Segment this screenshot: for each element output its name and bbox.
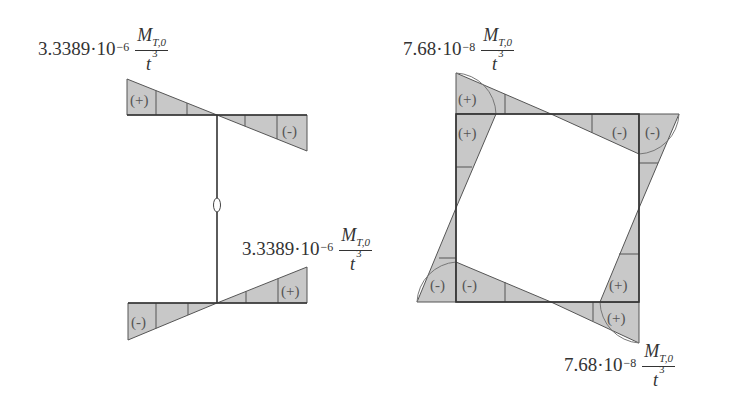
sign-plus: (+) (130, 92, 148, 109)
closed-section-diagram: (+) (+) (-) (-) (-) (-) (+) (+) (417, 73, 679, 343)
sign-plus: (+) (607, 310, 625, 327)
sign-minus: (-) (462, 277, 477, 294)
sign-minus: (-) (430, 277, 445, 294)
fraction: MT,0 t3 (135, 26, 168, 73)
sign-plus: (+) (458, 91, 476, 108)
right-top-magnitude-label: 7.68·10−8 MT,0 t3 (403, 26, 514, 73)
sign-plus: (+) (458, 125, 476, 142)
sign-plus: (+) (609, 277, 627, 294)
fraction: MT,0 t3 (642, 342, 675, 389)
left-bottom-magnitude-label: 3.3389·10−6 MT,0 t3 (242, 226, 372, 273)
zero-marker-icon (214, 198, 221, 212)
open-section-diagram: (+) (-) (-) (+) (127, 79, 307, 340)
sign-minus: (-) (612, 124, 627, 141)
sign-minus: (-) (131, 314, 146, 331)
sign-plus: (+) (281, 283, 299, 300)
sign-minus: (-) (645, 124, 660, 141)
bottom-edge-positive-region (551, 302, 639, 343)
fraction: MT,0 t3 (339, 226, 372, 273)
sign-minus: (-) (282, 123, 297, 140)
fraction: MT,0 t3 (481, 26, 514, 73)
left-top-magnitude-label: 3.3389·10−6 MT,0 t3 (38, 26, 168, 73)
right-bottom-magnitude-label: 7.68·10−8 MT,0 t3 (564, 342, 675, 389)
